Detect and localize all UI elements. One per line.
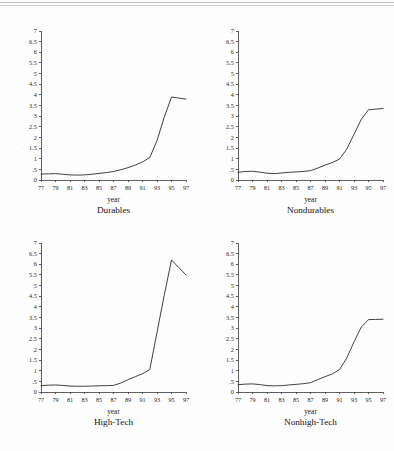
y-tick-label: 6.5	[226, 38, 234, 45]
y-tick-label: 3	[231, 324, 234, 331]
y-tick-label: 4	[34, 91, 37, 98]
y-tick-label: 2	[34, 346, 37, 353]
x-tick-label: 95	[365, 396, 371, 403]
y-tick-label: 5	[34, 70, 37, 77]
figure-page: 0.511.522.533.544.555.566.57777981838587…	[0, 0, 394, 451]
plot-area: 0.511.522.533.544.555.566.57777981838587…	[197, 14, 394, 232]
x-tick-label: 95	[168, 396, 174, 403]
y-tick-label: 6.5	[226, 250, 234, 257]
y-tick-label: 3	[34, 112, 37, 119]
x-tick-label: 87	[307, 184, 313, 191]
x-tick-label: 89	[125, 396, 131, 403]
y-tick-label: 3.5	[226, 314, 234, 321]
y-tick-label: 6	[34, 260, 37, 267]
y-tick-label: 2	[231, 346, 234, 353]
x-tick-label: 77	[235, 396, 241, 403]
x-axis-title: year	[304, 195, 317, 204]
x-tick-label: 87	[110, 396, 116, 403]
y-tick-label: 6	[34, 48, 37, 55]
y-tick-label: .5	[32, 378, 37, 385]
x-tick-label: 77	[38, 396, 44, 403]
x-tick-label: 77	[235, 184, 241, 191]
y-tick-label: 3.5	[29, 102, 37, 109]
x-tick-label: 87	[110, 184, 116, 191]
x-axis-title: year	[107, 407, 120, 416]
y-tick-label: 6.5	[29, 250, 37, 257]
x-tick-label: 91	[336, 396, 342, 403]
chart-panel-durables: 0.511.522.533.544.555.566.57777981838587…	[0, 14, 197, 232]
x-tick-label: 85	[96, 396, 102, 403]
x-tick-label: 87	[307, 396, 313, 403]
y-tick-label: 7	[34, 239, 37, 246]
x-tick-label: 83	[81, 184, 87, 191]
x-tick-label: 91	[139, 396, 145, 403]
y-tick-label: 6	[231, 48, 234, 55]
x-tick-label: 79	[249, 396, 255, 403]
x-tick-label: 97	[183, 396, 189, 403]
plot-area: 0.511.522.533.544.555.566.57777981838587…	[0, 14, 197, 232]
y-tick-label: 7	[34, 27, 37, 34]
y-tick-label: 4.5	[226, 292, 234, 299]
panel-title: Nonhigh-Tech	[284, 417, 337, 427]
plot-area: 0.511.522.533.544.555.566.57777981838587…	[0, 226, 197, 444]
y-tick-label: 1	[231, 367, 234, 374]
y-tick-label: 7	[231, 239, 234, 246]
chart-panel-high-tech: 0.511.522.533.544.555.566.57777981838587…	[0, 226, 197, 444]
y-tick-label: 5	[231, 70, 234, 77]
x-tick-label: 81	[264, 184, 270, 191]
y-tick-label: 1.5	[226, 144, 234, 151]
y-tick-label: 4	[231, 91, 234, 98]
x-tick-label: 81	[67, 184, 73, 191]
y-tick-label: 1	[231, 155, 234, 162]
x-tick-label: 89	[322, 396, 328, 403]
y-tick-label: 5.5	[226, 59, 234, 66]
x-tick-label: 95	[365, 184, 371, 191]
data-series-line	[238, 319, 383, 386]
chart-panel-grid: 0.511.522.533.544.555.566.57777981838587…	[0, 14, 394, 451]
x-tick-label: 97	[380, 396, 386, 403]
y-tick-label: .5	[229, 166, 234, 173]
y-tick-label: 4	[34, 303, 37, 310]
y-tick-label: 5.5	[226, 271, 234, 278]
x-tick-label: 93	[154, 184, 160, 191]
data-series-line	[238, 108, 383, 173]
x-tick-label: 83	[278, 396, 284, 403]
y-tick-label: 0	[34, 176, 37, 183]
y-tick-label: 6.5	[29, 38, 37, 45]
y-tick-label: 1	[34, 155, 37, 162]
y-tick-label: .5	[229, 378, 234, 385]
y-tick-label: 2.5	[226, 123, 234, 130]
x-tick-label: 93	[351, 184, 357, 191]
y-tick-label: 7	[231, 27, 234, 34]
panel-title: Nondurables	[287, 205, 334, 215]
y-tick-label: 2.5	[29, 335, 37, 342]
y-tick-label: 6	[231, 260, 234, 267]
y-tick-label: 0	[34, 388, 37, 395]
y-tick-label: 2	[34, 134, 37, 141]
chart-panel-nonhigh-tech: 0.511.522.533.544.555.566.57777981838587…	[197, 226, 394, 444]
y-tick-label: 3.5	[226, 102, 234, 109]
x-tick-label: 81	[67, 396, 73, 403]
y-tick-label: 1.5	[29, 356, 37, 363]
y-tick-label: .5	[32, 166, 37, 173]
y-tick-label: 2.5	[226, 335, 234, 342]
page-header-rule-upper	[0, 2, 394, 3]
y-tick-label: 2	[231, 134, 234, 141]
chart-panel-nondurables: 0.511.522.533.544.555.566.57777981838587…	[197, 14, 394, 232]
plot-area: 0.511.522.533.544.555.566.57777981838587…	[197, 226, 394, 444]
y-tick-label: 0	[231, 388, 234, 395]
y-tick-label: 3	[231, 112, 234, 119]
x-tick-label: 81	[264, 396, 270, 403]
x-tick-label: 93	[154, 396, 160, 403]
x-tick-label: 85	[293, 396, 299, 403]
y-tick-label: 2.5	[29, 123, 37, 130]
x-tick-label: 77	[38, 184, 44, 191]
x-tick-label: 97	[380, 184, 386, 191]
x-tick-label: 93	[351, 396, 357, 403]
x-axis-title: year	[304, 407, 317, 416]
x-tick-label: 91	[336, 184, 342, 191]
x-tick-label: 83	[278, 184, 284, 191]
data-series-line	[41, 97, 186, 175]
x-tick-label: 79	[52, 184, 58, 191]
y-tick-label: 4	[231, 303, 234, 310]
